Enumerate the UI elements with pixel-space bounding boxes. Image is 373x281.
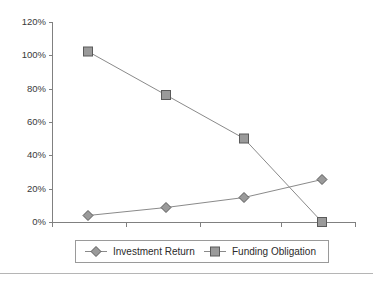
ytick-label-60: 60%: [27, 116, 47, 127]
marker-funding-obligation-0: [84, 47, 93, 56]
legend-label-funding-obligation: Funding Obligation: [232, 246, 316, 257]
chart-legend: Investment Return Funding Obligation: [76, 241, 329, 263]
series-line-funding-obligation: [88, 52, 322, 223]
ytick-label-40: 40%: [27, 149, 47, 160]
ytick-label-0: 0%: [32, 216, 46, 227]
ytick-label-100: 100%: [22, 49, 47, 60]
marker-funding-obligation-2: [240, 134, 249, 143]
marker-funding-obligation-3: [318, 218, 327, 227]
ytick-label-120: 120%: [22, 16, 47, 27]
square-icon: [211, 247, 220, 256]
chart-container: 120% 100% 80% 60% 40% 20% 0%: [0, 0, 373, 281]
marker-investment-return-2: [239, 193, 249, 203]
legend-label-investment-return: Investment Return: [113, 246, 195, 257]
ytick-label-20: 20%: [27, 183, 47, 194]
marker-funding-obligation-1: [162, 91, 171, 100]
line-chart: 120% 100% 80% 60% 40% 20% 0%: [0, 0, 373, 281]
marker-investment-return-1: [161, 203, 171, 213]
marker-investment-return-3: [317, 175, 327, 185]
ytick-label-80: 80%: [27, 83, 47, 94]
marker-investment-return-0: [83, 211, 93, 221]
